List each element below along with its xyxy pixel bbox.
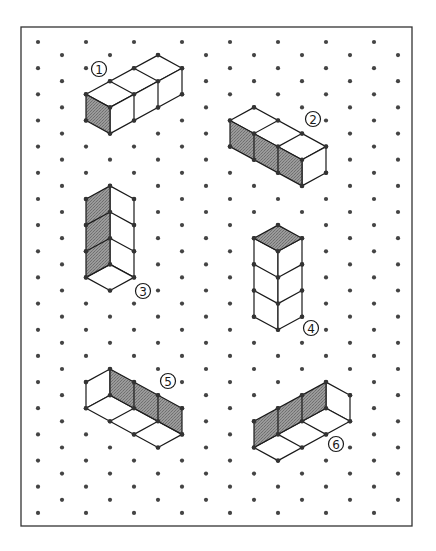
shape-label-3: 3 — [136, 284, 151, 299]
grid-dot — [252, 498, 256, 502]
shape-label-2: 2 — [306, 112, 321, 127]
grid-dot — [36, 171, 40, 175]
grid-dot — [156, 262, 160, 266]
worksheet-frame — [21, 27, 412, 526]
cube-vertex-dot — [300, 184, 305, 189]
grid-dot — [348, 315, 352, 319]
grid-dot — [324, 275, 328, 279]
grid-dot — [204, 315, 208, 319]
shape-label-4: 4 — [304, 321, 319, 336]
cube-face-shaded — [86, 186, 110, 278]
cube-vertex-dot — [324, 432, 329, 437]
grid-dot — [60, 262, 64, 266]
grid-dot — [60, 53, 64, 57]
grid-dot — [36, 328, 40, 332]
grid-dot — [84, 328, 88, 332]
grid-dot — [204, 79, 208, 83]
cube-vertex-dot — [156, 79, 161, 84]
grid-dot — [276, 511, 280, 515]
cube-vertex-dot — [300, 393, 305, 398]
cube-vertex-dot — [84, 197, 89, 202]
grid-dot — [60, 472, 64, 476]
grid-dot — [348, 288, 352, 292]
grid-dot — [180, 275, 184, 279]
grid-dot — [228, 249, 232, 253]
grid-dot — [132, 485, 136, 489]
grid-dot — [204, 132, 208, 136]
cube-vertex-dot — [324, 380, 329, 385]
cube-vertex-dot — [228, 144, 233, 149]
grid-dot — [348, 53, 352, 57]
grid-dot — [324, 118, 328, 122]
grid-dot — [60, 315, 64, 319]
grid-dot — [348, 236, 352, 240]
grid-dot — [372, 66, 376, 70]
shape-4: 4 — [252, 223, 319, 336]
cube-vertex-dot — [324, 144, 329, 149]
grid-dot — [132, 171, 136, 175]
cube-vertex-dot — [324, 406, 329, 411]
grid-dot — [60, 288, 64, 292]
cube-vertex-dot — [108, 79, 113, 84]
grid-dot — [156, 236, 160, 240]
grid-dot — [396, 419, 400, 423]
grid-dot — [372, 249, 376, 253]
grid-dot — [372, 145, 376, 149]
grid-dot — [348, 210, 352, 214]
cube-vertex-dot — [132, 432, 137, 437]
cube-face-white — [254, 238, 278, 330]
grid-dot — [60, 236, 64, 240]
cube-vertex-dot — [132, 66, 137, 71]
grid-dot — [396, 498, 400, 502]
shape-3: 3 — [84, 184, 151, 299]
grid-dot — [372, 92, 376, 96]
grid-dot — [36, 354, 40, 358]
grid-dot — [156, 184, 160, 188]
grid-dot — [180, 249, 184, 253]
grid-dot — [60, 79, 64, 83]
grid-dot — [396, 445, 400, 449]
grid-dot — [228, 406, 232, 410]
shape-1: 1 — [84, 53, 185, 136]
grid-dot — [36, 459, 40, 463]
grid-dot — [276, 485, 280, 489]
grid-dot — [324, 223, 328, 227]
grid-dot — [396, 262, 400, 266]
grid-dot — [180, 380, 184, 384]
cube-vertex-dot — [252, 105, 257, 110]
grid-dot — [252, 367, 256, 371]
grid-dot — [372, 197, 376, 201]
grid-dot — [324, 302, 328, 306]
cube-vertex-dot — [132, 275, 137, 280]
grid-dot — [204, 367, 208, 371]
grid-dot — [84, 511, 88, 515]
grid-dot — [228, 511, 232, 515]
grid-dot — [180, 223, 184, 227]
grid-dot — [204, 419, 208, 423]
grid-dot — [36, 380, 40, 384]
cube-vertex-dot — [276, 118, 281, 123]
grid-dot — [252, 393, 256, 397]
cube-vertex-dot — [300, 314, 305, 319]
grid-dot — [372, 432, 376, 436]
grid-dot — [276, 354, 280, 358]
grid-dot — [348, 262, 352, 266]
grid-dot — [228, 275, 232, 279]
grid-dot — [204, 498, 208, 502]
grid-dot — [36, 92, 40, 96]
cube-vertex-dot — [156, 445, 161, 450]
cube-vertex-dot — [300, 157, 305, 162]
grid-dot — [204, 210, 208, 214]
shape-label-6: 6 — [329, 437, 344, 452]
grid-dot — [204, 236, 208, 240]
grid-dot — [396, 132, 400, 136]
cube-vertex-dot — [252, 262, 257, 267]
cube-vertex-dot — [132, 249, 137, 254]
grid-dot — [348, 498, 352, 502]
grid-dot — [324, 485, 328, 489]
grid-dot — [324, 354, 328, 358]
cube-vertex-dot — [276, 432, 281, 437]
grid-dot — [204, 445, 208, 449]
grid-dot — [372, 171, 376, 175]
grid-dot — [108, 472, 112, 476]
